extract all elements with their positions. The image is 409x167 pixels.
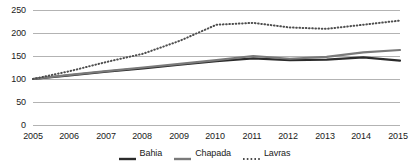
x-tick-label-2012: 2012 — [269, 131, 307, 141]
x-tick-label-2009: 2009 — [160, 131, 198, 141]
legend-swatch-chapada — [174, 149, 191, 158]
legend-swatch-lavras — [243, 149, 260, 158]
x-tick-label-2011: 2011 — [233, 131, 271, 141]
line-chart: 250 200 150 100 50 0 2005 2006 2007 2008… — [0, 0, 409, 167]
x-tick-label-2010: 2010 — [196, 131, 234, 141]
legend-item-chapada[interactable]: Chapada — [174, 148, 231, 158]
x-tick-label-2007: 2007 — [87, 131, 125, 141]
chart-legend: Bahia Chapada Lavras — [0, 148, 409, 158]
plot-area — [0, 0, 409, 167]
x-tick-label-2005: 2005 — [14, 131, 52, 141]
x-tick-label-2015: 2015 — [379, 131, 409, 141]
legend-item-bahia[interactable]: Bahia — [119, 148, 163, 158]
legend-label-lavras: Lavras — [264, 148, 290, 158]
x-tick-label-2013: 2013 — [306, 131, 344, 141]
legend-label-chapada: Chapada — [195, 148, 231, 158]
series-line-chapada — [33, 50, 400, 79]
x-tick-label-2006: 2006 — [50, 131, 88, 141]
legend-label-bahia: Bahia — [140, 148, 163, 158]
series-line-lavras — [33, 21, 400, 79]
x-tick-label-2008: 2008 — [123, 131, 161, 141]
x-tick-label-2014: 2014 — [342, 131, 380, 141]
legend-swatch-bahia — [119, 149, 136, 158]
legend-item-lavras[interactable]: Lavras — [243, 148, 290, 158]
series-lines — [33, 21, 400, 79]
